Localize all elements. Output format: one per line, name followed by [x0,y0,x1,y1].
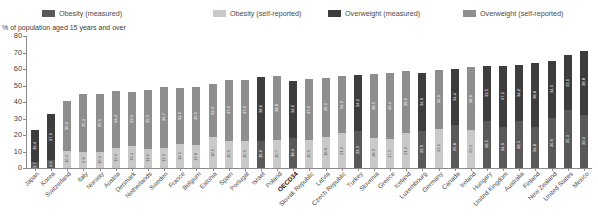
bar-column[interactable]: 34.014.5 [172,36,188,168]
bar-column[interactable]: 34.425.8 [447,36,463,168]
x-axis-label[interactable]: Spain [221,170,237,218]
bar-column[interactable]: 40.417.3 [382,36,398,168]
stacked-bar[interactable]: 37.016.6 [225,80,233,168]
x-axis-label[interactable]: Estonia [205,170,221,218]
x-axis-label[interactable]: France [173,170,189,218]
x-axis-label[interactable]: Netherlands [140,170,156,218]
bar-column[interactable]: 38.023.0 [463,36,479,168]
legend-overweight-self-reported[interactable]: Overweight (self-reported) [463,6,564,20]
x-axis-label[interactable]: Luxembourg [415,170,431,218]
bar-column[interactable]: 32.413.4 [124,36,140,168]
bar-column[interactable]: 36.018.8 [318,36,334,168]
bar-column[interactable]: 35.010.0 [92,36,108,168]
x-axis-label[interactable]: Slovenia [367,170,383,218]
stacked-bar[interactable]: 34.014.5 [176,88,184,168]
x-axis-label[interactable]: Switzerland [59,170,75,218]
bar-column[interactable]: 38.518.3 [366,36,382,168]
bar-column[interactable]: 38.832.4 [576,36,592,168]
x-axis-label[interactable]: Israel [253,170,269,218]
stacked-bar[interactable]: 34.922.5 [418,73,426,168]
x-axis-label[interactable]: Czech Republic [334,170,350,218]
x-axis-label[interactable]: Italy [76,170,92,218]
stacked-bar[interactable]: 38.616.6 [257,77,265,168]
bar-column[interactable]: 38.616.6 [253,36,269,168]
bar-column[interactable]: 34.921.0 [334,36,350,168]
x-axis-label[interactable]: Poland [270,170,286,218]
x-axis-label[interactable]: Japan [27,170,43,218]
stacked-bar[interactable]: 38.021.0 [402,71,410,168]
x-axis-label[interactable]: Ireland [464,170,480,218]
bar-column[interactable]: 34.922.5 [414,36,430,168]
stacked-bar[interactable]: 34.228.3 [515,65,523,168]
stacked-bar[interactable]: 35.39.8 [79,94,87,168]
bar-column[interactable]: 19.43.7 [27,36,43,168]
bar-column[interactable]: 38.816.7 [269,36,285,168]
bar-column[interactable]: 36.712.3 [156,36,172,168]
bar-column[interactable]: 33.528.5 [479,36,495,168]
bar-column[interactable]: 35.39.8 [75,36,91,168]
legend-overweight-measured[interactable]: Overweight (measured) [328,6,420,20]
stacked-bar[interactable]: 35.513.8 [192,87,200,168]
bar-column[interactable]: 37.016.9 [301,36,317,168]
bar-column[interactable]: 37.016.6 [221,36,237,168]
x-axis-label[interactable]: Canada [447,170,463,218]
x-axis-label[interactable]: Mexico [577,170,593,218]
stacked-bar[interactable]: 36.018.8 [322,78,330,168]
bar-column[interactable]: 36.023.6 [431,36,447,168]
stacked-bar[interactable]: 35.010.0 [96,94,104,168]
bar-column[interactable]: 35.511.8 [140,36,156,168]
legend-obesity-measured[interactable]: Obesity (measured) [42,6,122,20]
stacked-bar[interactable]: 32.418.6 [209,84,217,168]
stacked-bar[interactable]: 34.130.6 [548,61,556,168]
bar-column[interactable]: 37.016.6 [237,36,253,168]
bar-column[interactable]: 33.035.3 [560,36,576,168]
stacked-bar[interactable]: 40.417.3 [386,73,394,168]
stacked-bar[interactable]: 36.712.3 [160,87,168,168]
stacked-bar[interactable]: 34.618.4 [289,81,297,168]
stacked-bar[interactable]: 30.310.3 [63,101,71,168]
stacked-bar[interactable]: 33.528.5 [483,66,491,168]
stacked-bar[interactable]: 38.824.8 [531,63,539,168]
x-axis-label[interactable]: Portugal [237,170,253,218]
x-axis-label[interactable]: Sweden [156,170,172,218]
stacked-bar[interactable]: 38.816.7 [273,76,281,168]
bar-column[interactable]: 37.124.9 [495,36,511,168]
bar-column[interactable]: 30.310.3 [59,36,75,168]
stacked-bar[interactable]: 38.023.0 [467,67,475,168]
x-axis-label[interactable]: Norway [92,170,108,218]
bar-column[interactable]: 38.021.0 [398,36,414,168]
bar-column[interactable]: 32.418.6 [205,36,221,168]
bar-column[interactable]: 38.824.8 [527,36,543,168]
x-axis-label[interactable]: Australia [512,170,528,218]
stacked-bar[interactable]: 38.518.3 [370,74,378,168]
bar-column[interactable]: 34.130.6 [544,36,560,168]
bar-column[interactable]: 35.513.8 [188,36,204,168]
stacked-bar[interactable]: 37.016.9 [305,79,313,168]
stacked-bar[interactable]: 27.94.6 [47,114,55,168]
bar-column[interactable]: 27.94.6 [43,36,59,168]
x-axis-label[interactable]: Belgium [189,170,205,218]
x-axis-label[interactable]: Austria [108,170,124,218]
x-axis-label[interactable]: Turkey [350,170,366,218]
x-axis-label[interactable]: United Kingdom [496,170,512,218]
x-axis-label[interactable]: United States [561,170,577,218]
stacked-bar[interactable]: 36.023.6 [435,70,443,168]
bar-column[interactable]: 34.222.3 [350,36,366,168]
legend-obesity-self-reported[interactable]: Obesity (self-reported) [213,6,302,20]
x-axis-label[interactable]: Greece [383,170,399,218]
bar-column[interactable]: 34.412.4 [108,36,124,168]
stacked-bar[interactable]: 35.511.8 [144,90,152,168]
stacked-bar[interactable]: 37.124.9 [499,66,507,168]
bar-column[interactable]: 34.228.3 [511,36,527,168]
stacked-bar[interactable]: 34.222.3 [354,75,362,168]
stacked-bar[interactable]: 19.43.7 [31,130,39,168]
stacked-bar[interactable]: 38.832.4 [580,51,588,168]
stacked-bar[interactable]: 34.412.4 [112,91,120,168]
stacked-bar[interactable]: 37.016.6 [241,80,249,168]
x-axis-label[interactable]: Slovak Republic [302,170,318,218]
bar-column[interactable]: 34.618.4 [285,36,301,168]
stacked-bar[interactable]: 33.035.3 [564,55,572,168]
stacked-bar[interactable]: 34.921.0 [338,76,346,168]
x-axis-label[interactable]: Germany [431,170,447,218]
stacked-bar[interactable]: 32.413.4 [128,92,136,168]
